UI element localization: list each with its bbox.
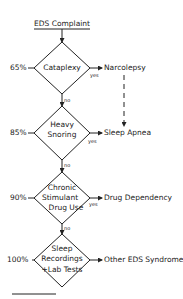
outcome-drug-dependency: Drug Dependency: [104, 194, 172, 202]
outcome-sleep-apnea: Sleep Apnea: [104, 129, 151, 137]
decision-cataplexy: Cataplexy: [43, 64, 81, 72]
decision-stimulant: Stimulant: [42, 194, 78, 202]
outcome-narcolepsy: Narcolepsy: [104, 64, 146, 72]
pct-label: 90%: [10, 194, 27, 202]
no-label: no: [64, 161, 70, 169]
pct-label: 85%: [10, 129, 27, 137]
decision-sleep: Sleep: [52, 245, 73, 253]
yes-label: yes: [89, 200, 98, 208]
yes-label: yes: [88, 137, 97, 145]
decision-chronic: Chronic: [48, 184, 76, 192]
decision-drug-use: Drug Use: [49, 204, 84, 212]
start-title: EDS Complaint: [34, 20, 90, 28]
decision-heavy: Heavy: [50, 121, 74, 129]
decision-lab-tests: +Lab Tests: [42, 266, 83, 274]
no-label: no: [64, 96, 70, 104]
yes-label: yes: [90, 71, 99, 79]
decision-recordings: Recordings: [41, 255, 82, 263]
no-label: no: [64, 224, 70, 232]
pct-label: 65%: [10, 64, 27, 72]
pct-label: 100%: [7, 256, 28, 264]
outcome-other-eds: Other EDS Syndromes: [104, 256, 183, 264]
decision-snoring: Snoring: [48, 131, 77, 139]
